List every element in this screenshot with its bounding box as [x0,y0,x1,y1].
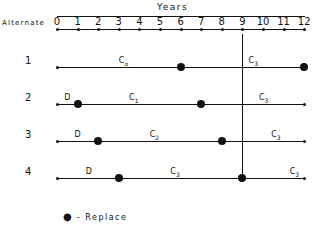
endpoint-dot [56,177,59,180]
legend: ● - Replace [63,205,127,224]
axis-label-alternate: Alternate [2,19,45,27]
legend-text: - Replace [77,213,128,222]
endpoint-dot [303,177,306,180]
tick-label: 6 [174,16,188,27]
endpoint-dot [56,140,59,143]
tick-label: 1 [71,16,85,27]
alternate-number: 4 [25,166,31,177]
segment-label: D [75,130,81,139]
tick-label: 11 [277,16,291,27]
replace-dot-icon [197,100,205,108]
segment-label: C3 [290,167,299,178]
tick-label: 8 [215,16,229,27]
tick-label: 3 [112,16,126,27]
endpoint-dot [303,140,306,143]
tick-label: 4 [132,16,146,27]
segment-label: D [86,167,92,176]
tick-label: 9 [235,16,249,27]
segment-label: Co [119,56,128,67]
replace-dot-icon [74,100,82,108]
segment-label: D [64,93,70,102]
tick-baseline [57,29,305,30]
segment-label: C3 [249,56,258,67]
alternate-number: 3 [25,129,31,140]
tick-label: 10 [256,16,270,27]
tick-label: 5 [153,16,167,27]
year-9-marker-line [242,34,243,179]
replace-dot-icon [218,137,226,145]
segment-label: C3 [170,167,179,178]
segment-label: C1 [129,93,138,104]
segment-label: C3 [271,130,280,141]
replace-dot-icon [115,174,123,182]
replace-dot-icon [238,174,246,182]
tick-label: 7 [194,16,208,27]
timeline-line [57,178,304,179]
alternate-number: 1 [25,55,31,66]
segment-label: C2 [150,130,159,141]
endpoint-dot [56,66,59,69]
segment-label: C3 [259,93,268,104]
tick-label: 0 [50,16,64,27]
replace-dot-icon [300,63,308,71]
timeline-line [57,104,304,105]
replace-dot-icon: ● [63,211,72,222]
alternate-number: 2 [25,92,31,103]
endpoint-dot [56,103,59,106]
replace-dot-icon [177,63,185,71]
chart-title: Years [157,2,188,12]
tick-label: 12 [297,16,311,27]
replace-dot-icon [94,137,102,145]
endpoint-dot [303,103,306,106]
tick-label: 2 [91,16,105,27]
